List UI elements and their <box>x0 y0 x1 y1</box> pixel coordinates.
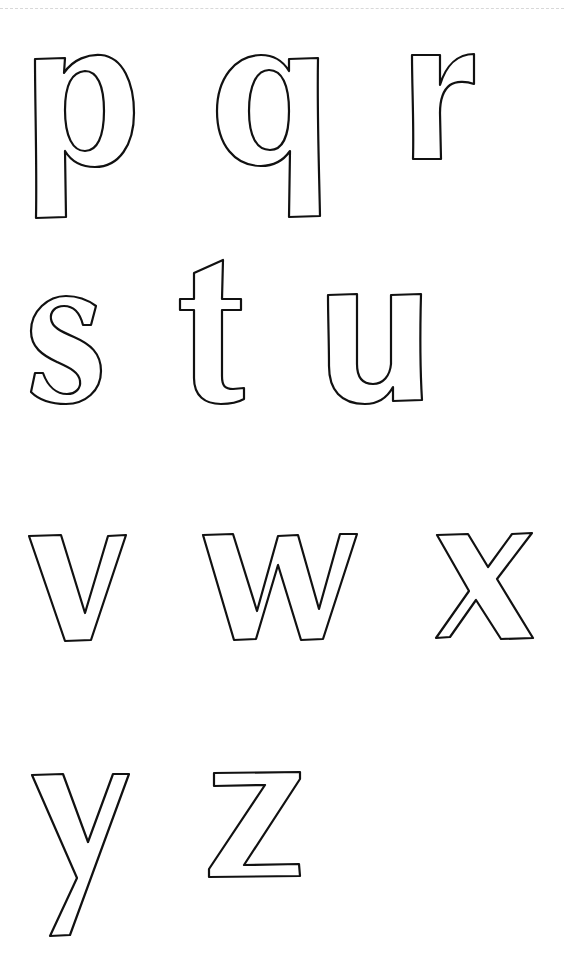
letter-w-outline-icon <box>202 533 358 641</box>
letter-q: q <box>217 55 321 220</box>
letter-z-outline-icon <box>208 771 302 879</box>
letter-x-outline-icon <box>435 532 535 640</box>
letter-y: y <box>31 772 130 938</box>
letter-y-outline-icon <box>31 772 130 938</box>
letter-s: s <box>30 295 102 405</box>
letter-v: v <box>28 534 128 642</box>
letter-worksheet: p q r s t u v <box>0 0 564 980</box>
letter-p-outline-icon <box>33 55 133 220</box>
letter-v-outline-icon <box>28 534 128 642</box>
letter-s-outline-icon <box>30 295 102 405</box>
letter-u: u <box>327 292 423 405</box>
letter-w: w <box>202 533 358 641</box>
letter-t: t <box>179 258 245 404</box>
letter-r: r <box>410 53 476 161</box>
letter-x: x <box>435 532 535 640</box>
letter-r-outline-icon <box>410 53 476 161</box>
letter-p: p <box>33 55 133 220</box>
letter-u-outline-icon <box>327 292 423 405</box>
letter-z: z <box>208 771 302 879</box>
letter-t-outline-icon <box>179 258 245 404</box>
letter-q-outline-icon <box>217 55 321 220</box>
